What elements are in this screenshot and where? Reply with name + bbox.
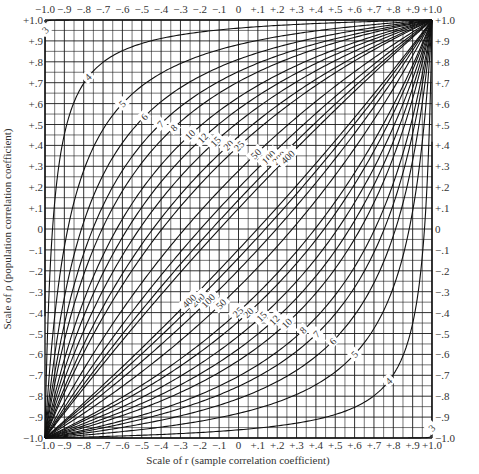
- y-tick-right: +.2: [435, 181, 449, 193]
- y-tick-left: −1.0: [23, 432, 43, 444]
- y-tick-left: +.2: [29, 181, 43, 193]
- x-tick-bottom: −.3: [173, 439, 188, 451]
- y-tick-right: −.8: [435, 390, 450, 402]
- x-tick-top: +.2: [270, 3, 284, 15]
- y-tick-left: +1.0: [23, 14, 43, 26]
- y-tick-right: −.7: [435, 369, 450, 381]
- y-tick-left: −.3: [29, 286, 44, 298]
- x-tick-bottom: −.5: [135, 439, 150, 451]
- x-tick-top: −.5: [135, 3, 150, 15]
- y-tick-left: −.9: [29, 411, 44, 423]
- y-tick-right: −.5: [435, 328, 450, 340]
- x-axis-title: Scale of r (sample correlation coefficie…: [146, 454, 330, 467]
- y-tick-right: +.6: [435, 98, 450, 110]
- y-tick-left: +.6: [29, 98, 44, 110]
- y-tick-left: −.5: [29, 328, 44, 340]
- y-tick-left: −.4: [29, 307, 44, 319]
- x-tick-top: −.2: [193, 3, 207, 15]
- y-tick-right: +.8: [435, 56, 450, 68]
- y-tick-right: +.3: [435, 160, 450, 172]
- x-tick-top: −.3: [173, 3, 188, 15]
- y-tick-right: −.2: [435, 265, 449, 277]
- y-tick-left: +.9: [29, 35, 44, 47]
- y-axis-title: Scale of ρ (population correlation coeff…: [1, 128, 14, 329]
- y-tick-right: +1.0: [435, 14, 455, 26]
- x-tick-bottom: +.6: [347, 439, 362, 451]
- y-tick-right: +.5: [435, 119, 450, 131]
- y-tick-left: +.4: [29, 139, 44, 151]
- x-tick-top: −.6: [115, 3, 130, 15]
- x-tick-top: −.1: [212, 3, 226, 15]
- x-tick-bottom: −.1: [212, 439, 226, 451]
- y-tick-right: −.1: [435, 244, 449, 256]
- y-tick-right: +.4: [435, 139, 450, 151]
- y-tick-right: −1.0: [435, 432, 455, 444]
- x-axis-bottom-ticks: −1.0−.9−.8−.7−.6−.5−.4−.3−.2−.10+.1+.2+.…: [35, 439, 442, 451]
- y-tick-left: −.7: [29, 369, 44, 381]
- x-tick-top: +.5: [328, 3, 343, 15]
- y-axis-left-ticks: +1.0+.9+.8+.7+.6+.5+.4+.3+.2+.10−.1−.2−.…: [23, 14, 43, 444]
- y-tick-right: 0: [435, 223, 441, 235]
- x-tick-bottom: +.8: [386, 439, 401, 451]
- x-tick-top: −.8: [76, 3, 91, 15]
- y-tick-right: −.6: [435, 348, 450, 360]
- y-tick-left: −.6: [29, 348, 44, 360]
- y-tick-left: +.5: [29, 119, 44, 131]
- x-tick-top: +.7: [367, 3, 382, 15]
- x-tick-bottom: +.3: [289, 439, 304, 451]
- x-tick-top: −.9: [57, 3, 72, 15]
- x-tick-bottom: +.5: [328, 439, 343, 451]
- x-tick-bottom: −.2: [193, 439, 207, 451]
- x-tick-top: +.4: [309, 3, 324, 15]
- chart-grid: [45, 20, 432, 438]
- x-tick-bottom: −.4: [154, 439, 169, 451]
- x-tick-top: +.3: [289, 3, 304, 15]
- y-tick-left: +.7: [29, 77, 44, 89]
- y-tick-right: −.9: [435, 411, 450, 423]
- x-tick-bottom: +.7: [367, 439, 382, 451]
- x-tick-bottom: +.4: [309, 439, 324, 451]
- x-tick-bottom: −.6: [115, 439, 130, 451]
- y-tick-right: +.7: [435, 77, 450, 89]
- y-tick-right: +.1: [435, 202, 449, 214]
- x-axis-top-ticks: −1.0−.9−.8−.7−.6−.5−.4−.3−.2−.10+.1+.2+.…: [35, 3, 442, 15]
- x-tick-bottom: 0: [236, 439, 242, 451]
- y-axis-right-ticks: +1.0+.9+.8+.7+.6+.5+.4+.3+.2+.10−.1−.2−.…: [435, 14, 455, 444]
- y-tick-left: −.8: [29, 390, 44, 402]
- x-tick-bottom: −.8: [76, 439, 91, 451]
- x-tick-bottom: −.7: [96, 439, 111, 451]
- x-tick-bottom: +.1: [251, 439, 265, 451]
- x-tick-bottom: −.9: [57, 439, 72, 451]
- x-tick-top: +.1: [251, 3, 265, 15]
- x-tick-top: +.6: [347, 3, 362, 15]
- x-tick-bottom: +.9: [405, 439, 420, 451]
- y-tick-left: +.3: [29, 160, 44, 172]
- x-tick-top: 0: [236, 3, 242, 15]
- y-tick-left: +.1: [29, 202, 43, 214]
- confidence-belt-chart: 3344556677881010121215152020252550501001…: [0, 0, 479, 474]
- x-tick-top: +.8: [386, 3, 401, 15]
- y-tick-left: +.8: [29, 56, 44, 68]
- y-tick-right: −.4: [435, 307, 450, 319]
- x-tick-top: −.7: [96, 3, 111, 15]
- x-tick-top: +.9: [405, 3, 420, 15]
- y-tick-right: +.9: [435, 35, 450, 47]
- y-tick-left: −.1: [29, 244, 43, 256]
- x-tick-bottom: +.2: [270, 439, 284, 451]
- y-tick-left: −.2: [29, 265, 43, 277]
- x-tick-top: −.4: [154, 3, 169, 15]
- y-tick-left: 0: [38, 223, 44, 235]
- y-tick-right: −.3: [435, 286, 450, 298]
